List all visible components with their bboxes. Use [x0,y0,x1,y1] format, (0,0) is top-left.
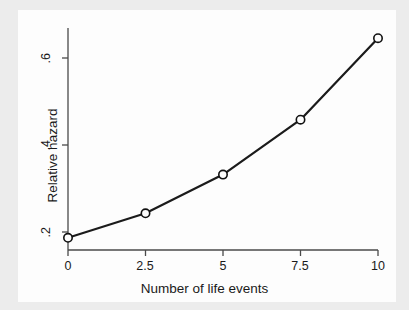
data-point-marker [374,34,382,42]
data-point-marker [296,116,304,124]
data-series-line [68,38,378,238]
plot-svg [18,10,396,302]
chart-figure: .6 .4 .2 0 2.5 5 7.5 10 Relative hazard … [0,0,409,310]
data-point-marker [141,209,149,217]
data-point-marker [64,234,72,242]
data-point-marker [219,170,227,178]
x-axis-title: Number of life events [0,281,409,296]
x-tick-label-7.5: 7.5 [286,260,314,273]
x-tick-label-2.5: 2.5 [131,260,159,273]
y-tick-label-0.6: .6 [40,48,53,68]
x-tick-label-0: 0 [54,260,82,273]
x-tick-label-10: 10 [364,260,392,273]
y-axis-title: Relative hazard [45,76,60,236]
x-tick-label-5: 5 [209,260,237,273]
plot-canvas: .6 .4 .2 0 2.5 5 7.5 10 Relative hazard [18,10,396,302]
